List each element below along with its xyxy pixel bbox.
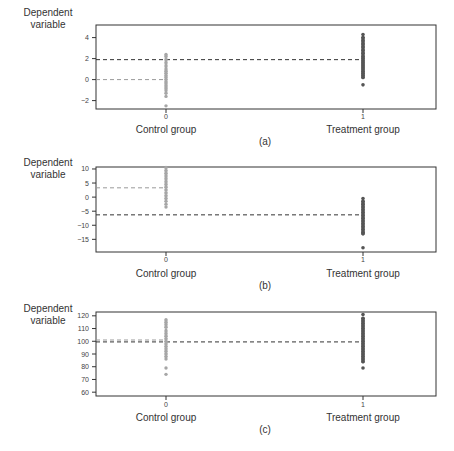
control-point xyxy=(164,373,167,376)
treatment-point xyxy=(361,39,365,43)
x-tick-label: 1 xyxy=(361,401,365,408)
y-tick-label: 110 xyxy=(78,325,89,332)
treatment-point xyxy=(361,33,365,37)
plot-frame xyxy=(96,312,436,396)
y-tick-label: 0 xyxy=(85,194,89,201)
figure: Dependentvariable−20240Control group1Tre… xyxy=(0,0,454,451)
control-point xyxy=(164,366,167,369)
treatment-point xyxy=(361,83,365,87)
plot-frame xyxy=(96,25,436,109)
panel-label: (b) xyxy=(259,280,271,291)
panel-b: Dependentvariable−15−10−505100Control gr… xyxy=(24,157,436,291)
y-tick-label: −5 xyxy=(81,208,89,215)
treatment-point xyxy=(361,366,365,370)
y-tick-label: 70 xyxy=(81,376,89,383)
y-axis-label: Dependent xyxy=(24,157,73,168)
panel-label: (c) xyxy=(259,424,271,435)
treatment-point xyxy=(361,52,365,56)
y-tick-label: 10 xyxy=(81,165,89,172)
x-axis-label: Control group xyxy=(136,412,197,423)
treatment-point xyxy=(361,48,365,52)
y-tick-label: 0 xyxy=(85,76,89,83)
treatment-point xyxy=(361,76,365,80)
x-axis-label: Control group xyxy=(136,268,197,279)
control-point xyxy=(164,95,167,98)
treatment-point xyxy=(361,360,365,364)
y-axis-label: variable xyxy=(30,169,65,180)
y-axis-label: Dependent xyxy=(24,7,73,18)
y-tick-label: 5 xyxy=(85,180,89,187)
y-tick-label: −15 xyxy=(77,236,89,243)
treatment-point xyxy=(361,42,365,46)
y-tick-label: 80 xyxy=(81,363,89,370)
y-tick-label: 2 xyxy=(85,55,89,62)
y-tick-label: 120 xyxy=(77,312,89,319)
y-axis-label: variable xyxy=(30,315,65,326)
x-tick-label: 1 xyxy=(361,113,365,120)
y-tick-label: 100 xyxy=(77,338,89,345)
panel-label: (a) xyxy=(259,136,271,147)
y-tick-label: 4 xyxy=(85,34,89,41)
x-axis-label: Treatment group xyxy=(326,124,400,135)
treatment-point xyxy=(361,45,365,49)
plot-frame xyxy=(96,167,436,252)
y-tick-label: 90 xyxy=(81,351,89,358)
panel-a: Dependentvariable−20240Control group1Tre… xyxy=(24,7,436,147)
control-point xyxy=(164,104,167,107)
x-tick-label: 1 xyxy=(361,256,365,263)
y-tick-label: 60 xyxy=(81,389,89,396)
treatment-point xyxy=(361,313,365,317)
x-tick-label: 0 xyxy=(164,256,168,263)
y-tick-label: −10 xyxy=(77,222,89,229)
control-point xyxy=(164,205,167,208)
x-tick-label: 0 xyxy=(164,401,168,408)
y-tick-label: −2 xyxy=(81,97,89,104)
treatment-point xyxy=(361,246,365,250)
x-tick-label: 0 xyxy=(164,113,168,120)
y-axis-label: variable xyxy=(30,19,65,30)
panel-c: Dependentvariable607080901001101200Contr… xyxy=(24,303,436,435)
x-axis-label: Treatment group xyxy=(326,268,400,279)
treatment-point xyxy=(361,36,365,40)
x-axis-label: Treatment group xyxy=(326,412,400,423)
treatment-point xyxy=(361,232,365,236)
x-axis-label: Control group xyxy=(136,124,197,135)
y-axis-label: Dependent xyxy=(24,303,73,314)
